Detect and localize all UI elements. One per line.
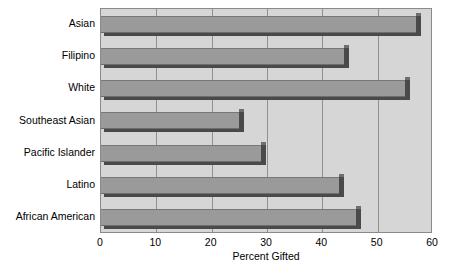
category-label: African American bbox=[0, 210, 95, 222]
category-label: Southeast Asian bbox=[0, 114, 95, 126]
category-label: Latino bbox=[0, 178, 95, 190]
bar-chart-figure: AsianFilipinoWhiteSoutheast AsianPacific… bbox=[0, 0, 460, 275]
x-axis-title: Percent Gifted bbox=[100, 250, 432, 262]
x-tick-label: 60 bbox=[426, 236, 438, 248]
x-tick-label: 40 bbox=[315, 236, 327, 248]
category-label: Filipino bbox=[0, 49, 95, 61]
x-tick-label: 20 bbox=[205, 236, 217, 248]
x-tick-label: 0 bbox=[97, 236, 103, 248]
category-axis-labels: AsianFilipinoWhiteSoutheast AsianPacific… bbox=[0, 8, 460, 233]
x-tick-label: 10 bbox=[149, 236, 161, 248]
x-tick-label: 50 bbox=[371, 236, 383, 248]
x-tick-label: 30 bbox=[260, 236, 272, 248]
category-label: White bbox=[0, 81, 95, 93]
category-label: Pacific Islander bbox=[0, 146, 95, 158]
category-label: Asian bbox=[0, 17, 95, 29]
